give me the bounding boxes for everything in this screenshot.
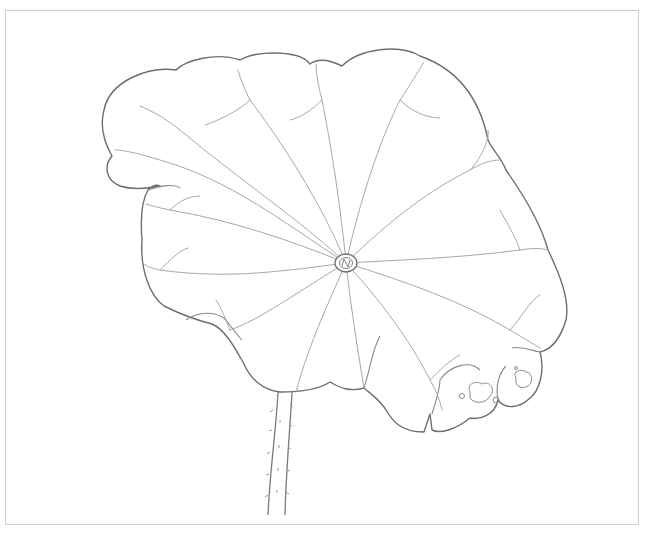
leaf-center bbox=[335, 254, 357, 272]
leaf-folds bbox=[148, 186, 540, 414]
leaf-veins bbox=[115, 62, 548, 410]
lotus-leaf-drawing bbox=[0, 0, 645, 534]
leaf-spots bbox=[460, 367, 532, 404]
leaf-outline bbox=[102, 49, 566, 432]
stem bbox=[265, 392, 293, 515]
